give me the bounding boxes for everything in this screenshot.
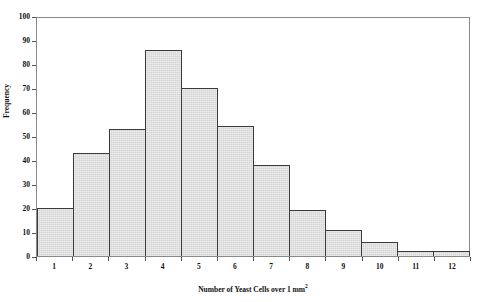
- bar-6: [217, 126, 254, 256]
- y-tick-label: 100: [6, 11, 30, 22]
- bar-11: [397, 251, 434, 256]
- y-tick-label: 90: [6, 35, 30, 46]
- bar-10: [361, 242, 398, 256]
- x-tick-mark-0: [36, 257, 37, 261]
- x-axis-title: Number of Yeast Cells over 1 mm2: [36, 283, 470, 294]
- x-axis-title-text: Number of Yeast Cells over 1 mm: [198, 285, 305, 294]
- y-tick-label: 80: [6, 59, 30, 70]
- x-tick-mark-5: [217, 257, 218, 261]
- y-tick-label: 50: [6, 131, 30, 142]
- y-tick-label: 40: [6, 155, 30, 166]
- x-tick-mark-10: [398, 257, 399, 261]
- x-tick-mark-4: [181, 257, 182, 261]
- x-tick-mark-1: [72, 257, 73, 261]
- x-tick-mark-9: [362, 257, 363, 261]
- x-tick-mark-8: [325, 257, 326, 261]
- x-tick-label-5: 5: [181, 262, 217, 271]
- x-tick-label-2: 2: [72, 262, 108, 271]
- plot-area: [36, 17, 470, 257]
- y-tick-label: 0: [6, 251, 30, 262]
- y-tick-label: 30: [6, 179, 30, 190]
- x-tick-mark-6: [253, 257, 254, 261]
- bar-12: [433, 251, 470, 256]
- x-tick-mark-11: [434, 257, 435, 261]
- y-tick-label: 20: [6, 203, 30, 214]
- x-tick-label-10: 10: [362, 262, 398, 271]
- x-tick-label-11: 11: [398, 262, 434, 271]
- y-axis: 0102030405060708090100: [0, 17, 36, 257]
- x-axis-title-superscript: 2: [305, 283, 308, 289]
- y-tick-label: 10: [6, 227, 30, 238]
- x-tick-label-3: 3: [108, 262, 144, 271]
- x-tick-label-1: 1: [36, 262, 72, 271]
- x-tick-mark-7: [289, 257, 290, 261]
- x-tick-label-4: 4: [145, 262, 181, 271]
- bar-1: [37, 208, 74, 256]
- x-tick-label-8: 8: [289, 262, 325, 271]
- bar-3: [109, 129, 146, 256]
- x-tick-label-12: 12: [434, 262, 470, 271]
- histogram-chart: 0102030405060708090100 Frequency 1234567…: [0, 0, 501, 302]
- x-tick-mark-12: [470, 257, 471, 261]
- y-axis-title: Frequency: [2, 84, 11, 118]
- bar-2: [73, 153, 110, 256]
- bar-4: [145, 50, 182, 256]
- x-tick-label-7: 7: [253, 262, 289, 271]
- x-axis-ticks: [36, 257, 470, 261]
- x-tick-label-6: 6: [217, 262, 253, 271]
- bar-7: [253, 165, 290, 256]
- x-axis: 123456789101112: [36, 257, 470, 281]
- x-tick-mark-2: [108, 257, 109, 261]
- bar-series: [37, 18, 469, 256]
- x-tick-mark-3: [145, 257, 146, 261]
- x-tick-label-9: 9: [325, 262, 361, 271]
- x-axis-tick-labels: 123456789101112: [36, 262, 470, 271]
- bar-5: [181, 88, 218, 256]
- bar-9: [325, 230, 362, 256]
- bar-8: [289, 210, 326, 256]
